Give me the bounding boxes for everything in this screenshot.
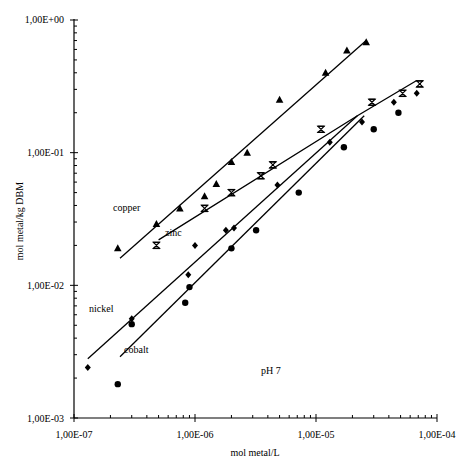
marker-nickel (185, 271, 191, 278)
marker-nickel (192, 242, 198, 249)
fit-lines (88, 41, 417, 359)
marker-cobalt (228, 245, 234, 251)
y-tick-label-1e0: 1,00E+00 (25, 14, 64, 25)
marker-zinc (400, 90, 406, 96)
marker-nickel (327, 139, 333, 146)
fit-line-nickel (88, 116, 358, 359)
x-tick-label-1e-5: 1,00E-05 (298, 429, 335, 440)
y-tick-label-1e-3: 1,00E-03 (27, 413, 64, 424)
marker-copper (201, 192, 209, 199)
marker-cobalt (186, 284, 192, 290)
x-tick-label-1e-6: 1,00E-06 (177, 429, 214, 440)
sorption-isotherm-chart: 1,00E+00 1,00E-01 1,00E-02 1,00E-03 1,00… (0, 0, 471, 471)
marker-copper (322, 69, 330, 76)
fit-line-cobalt (120, 116, 364, 357)
marker-copper (114, 244, 122, 251)
marker-cobalt (253, 227, 259, 233)
text-labels: 1,00E+00 1,00E-01 1,00E-02 1,00E-03 1,00… (14, 14, 455, 458)
y-axis-title: mol metal/kg DBM (14, 182, 25, 260)
series-label-cobalt: cobalt (124, 344, 149, 355)
marker-cobalt (182, 299, 188, 305)
marker-copper (276, 96, 284, 103)
marker-copper (243, 149, 251, 156)
marker-nickel (391, 99, 397, 106)
marker-zinc (369, 99, 375, 105)
marker-copper (343, 46, 351, 53)
x-axis-title: mol metal/L (230, 447, 279, 458)
x-tick-label-1e-7: 1,00E-07 (56, 429, 93, 440)
marker-zinc (153, 242, 159, 248)
marker-copper (213, 180, 221, 187)
y-tick-label-1e-2: 1,00E-02 (27, 280, 64, 291)
axes (70, 19, 437, 422)
marker-zinc (270, 162, 276, 168)
marker-cobalt (395, 110, 401, 116)
marker-copper (362, 38, 370, 45)
marker-zinc (417, 81, 423, 87)
fit-line-zinc (159, 81, 417, 240)
x-tick-label-1e-4: 1,00E-04 (419, 429, 456, 440)
series-label-copper: copper (113, 202, 141, 213)
marker-nickel (414, 90, 420, 97)
marker-cobalt (115, 381, 121, 387)
marker-cobalt (296, 189, 302, 195)
series-label-zinc: zinc (165, 227, 182, 238)
marker-nickel (274, 182, 280, 189)
y-tick-label-1e-1: 1,00E-01 (27, 147, 64, 158)
marker-zinc (258, 173, 264, 179)
marker-cobalt (129, 321, 135, 327)
marker-nickel (85, 364, 91, 371)
series-label-nickel: nickel (89, 303, 114, 314)
marker-cobalt (341, 144, 347, 150)
marker-cobalt (371, 126, 377, 132)
marker-zinc (318, 126, 324, 132)
ph-annotation: pH 7 (261, 365, 281, 376)
